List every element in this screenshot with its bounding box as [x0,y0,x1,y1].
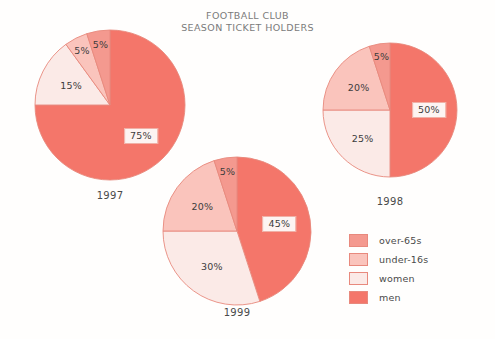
legend-item-under-16s: under-16s [349,250,428,269]
slice-label-women: 30% [201,260,223,271]
slice-label-women: 25% [352,132,374,143]
legend-label-women: women [379,273,415,284]
slice-label-under-16s: 5% [74,45,89,56]
slice-label-over-65s: 5% [220,166,235,177]
slice-label-men: 45% [263,216,297,232]
legend-swatch-men [349,291,368,304]
year-label-1999: 1999 [157,307,317,318]
year-label-1998: 1998 [317,196,463,207]
legend-label-men: men [379,292,401,303]
legend-item-men: men [349,288,428,307]
legend-item-over-65s: over-65s [349,231,428,250]
slice-label-under-16s: 20% [348,82,370,93]
pie-chart-1999: 45%30%20%5%1999 [157,151,317,323]
slice-label-over-65s: 5% [374,50,389,61]
legend-label-under-16s: under-16s [379,254,428,265]
legend-label-over-65s: over-65s [379,235,422,246]
legend-swatch-over-65s [349,234,368,247]
legend-item-women: women [349,269,428,288]
slice-label-women: 15% [60,80,82,91]
slice-label-men: 75% [124,128,158,144]
chart-legend: over-65sunder-16swomenmen [349,231,428,307]
legend-swatch-women [349,272,368,285]
slice-label-over-65s: 5% [93,39,108,50]
pie-chart-1998: 50%25%20%5%1998 [317,37,463,212]
slice-label-under-16s: 20% [191,200,213,211]
pie-slice-women [323,110,390,177]
legend-swatch-under-16s [349,253,368,266]
slice-label-men: 50% [412,102,446,118]
pie-chart-figure: FOOTBALL CLUB SEASON TICKET HOLDERS 75%1… [0,0,495,339]
